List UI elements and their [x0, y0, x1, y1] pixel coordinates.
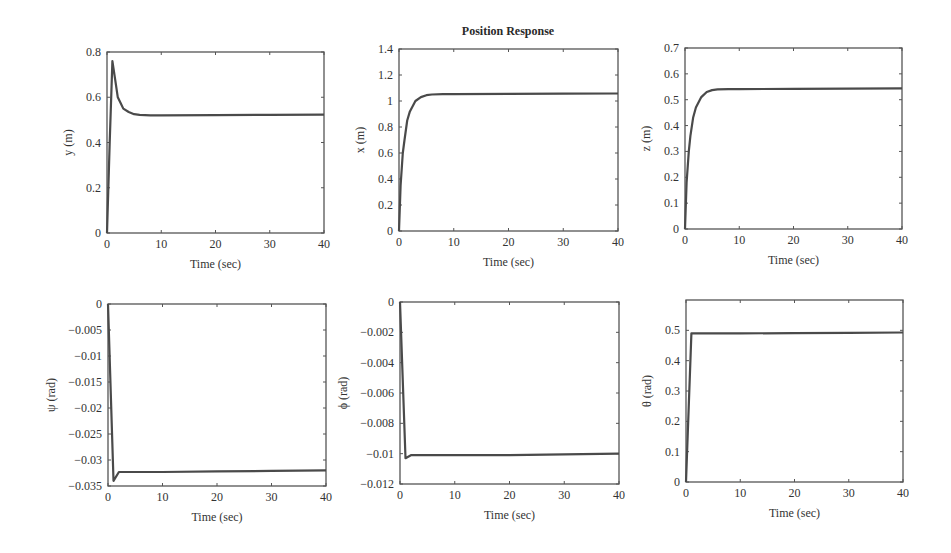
y-axis-label: ψ (rad) [44, 378, 58, 412]
y-tick-label: 0.2 [665, 414, 680, 428]
y-tick-label: 0.4 [86, 136, 101, 150]
x-tick-label: 30 [843, 486, 855, 500]
axes-frame [399, 49, 618, 231]
y-tick-label: 0.5 [664, 93, 679, 107]
x-tick-label: 40 [320, 490, 332, 504]
x-tick-label: 0 [104, 237, 110, 251]
x-tick-label: 10 [157, 490, 169, 504]
x-tick-label: 30 [842, 233, 854, 247]
y-tick-label: 0.7 [664, 41, 679, 55]
y-tick-label: 0 [388, 295, 394, 309]
y-axis-label: z (m) [639, 126, 653, 152]
y-tick-label: −0.005 [68, 323, 102, 337]
y-tick-label: 1.4 [378, 42, 393, 56]
x-tick-label: 30 [264, 237, 276, 251]
y-tick-label: 0.2 [378, 198, 393, 212]
y-tick-label: 0.4 [665, 354, 680, 368]
x-tick-label: 40 [897, 486, 909, 500]
x-tick-label: 40 [896, 233, 908, 247]
x-tick-label: 30 [266, 490, 278, 504]
x-tick-label: 10 [155, 237, 167, 251]
y-tick-label: 0.2 [86, 181, 101, 195]
x-tick-label: 20 [789, 486, 801, 500]
y-tick-label: −0.035 [68, 479, 102, 493]
x-axis-label: Time (sec) [769, 506, 820, 520]
x-axis-label: Time (sec) [768, 253, 819, 267]
x-tick-label: 20 [504, 488, 516, 502]
x-tick-label: 20 [788, 233, 800, 247]
y-tick-label: 0 [387, 224, 393, 238]
y-tick-label: −0.004 [360, 356, 394, 370]
x-axis-label: Time (sec) [191, 510, 242, 524]
y-tick-label: −0.006 [360, 386, 394, 400]
y-tick-label: 0.8 [86, 45, 101, 59]
y-tick-label: 0 [96, 297, 102, 311]
figure-canvas: 01020304000.20.40.60.8Time (sec)y (m)010… [0, 0, 951, 553]
y-tick-label: −0.025 [68, 427, 102, 441]
subplot-top-right: 01020304000.10.20.30.40.50.60.7Time (sec… [639, 41, 908, 267]
y-tick-label: 0.3 [664, 144, 679, 158]
y-tick-label: 1 [387, 94, 393, 108]
y-tick-label: 0.5 [665, 323, 680, 337]
y-tick-label: −0.008 [360, 416, 394, 430]
y-tick-label: 0.2 [664, 170, 679, 184]
x-tick-label: 0 [105, 490, 111, 504]
x-tick-label: 0 [396, 235, 402, 249]
y-tick-label: 0.4 [378, 172, 393, 186]
x-tick-label: 40 [612, 235, 624, 249]
y-tick-label: 0.8 [378, 120, 393, 134]
axes-frame [400, 302, 619, 484]
subplot-top-left: 01020304000.20.40.60.8Time (sec)y (m) [61, 45, 330, 271]
y-tick-label: 0 [673, 222, 679, 236]
y-axis-label: ϕ (rad) [336, 377, 350, 410]
x-tick-label: 0 [683, 486, 689, 500]
y-axis-label: y (m) [61, 129, 75, 155]
x-tick-label: 0 [682, 233, 688, 247]
x-tick-label: 30 [558, 488, 570, 502]
subplot-bottom-right: 01020304000.10.20.30.40.5Time (sec)θ (ra… [640, 300, 909, 520]
y-tick-label: −0.002 [360, 325, 394, 339]
x-axis-label: Time (sec) [190, 257, 241, 271]
x-tick-label: 10 [734, 486, 746, 500]
y-tick-label: 0 [674, 475, 680, 489]
y-tick-label: 0.4 [664, 119, 679, 133]
axes-frame [107, 52, 324, 233]
x-tick-label: 10 [449, 488, 461, 502]
y-tick-label: 0.1 [665, 445, 680, 459]
axes-frame [686, 300, 903, 482]
y-tick-label: −0.03 [74, 453, 102, 467]
y-tick-label: 1.2 [378, 68, 393, 82]
subplot-top-middle: 01020304000.20.40.60.811.21.4Time (sec)x… [353, 42, 624, 269]
x-tick-label: 20 [503, 235, 515, 249]
y-tick-label: 0.6 [378, 146, 393, 160]
x-axis-label: Time (sec) [483, 255, 534, 269]
axes-frame [108, 304, 326, 486]
x-tick-label: 40 [613, 488, 625, 502]
y-axis-label: θ (rad) [640, 375, 654, 407]
y-tick-label: −0.012 [360, 477, 394, 491]
axes-frame [685, 48, 902, 229]
y-tick-label: −0.015 [68, 375, 102, 389]
y-tick-label: −0.01 [74, 349, 102, 363]
y-tick-label: −0.01 [366, 447, 394, 461]
x-tick-label: 10 [448, 235, 460, 249]
x-tick-label: 20 [210, 237, 222, 251]
x-tick-label: 10 [733, 233, 745, 247]
y-axis-label: x (m) [353, 127, 367, 153]
y-tick-label: 0.6 [86, 90, 101, 104]
subplot-bottom-middle: 010203040−0.012−0.01−0.008−0.006−0.004−0… [336, 295, 625, 522]
subplot-bottom-left: 010203040−0.035−0.03−0.025−0.02−0.015−0.… [44, 297, 332, 524]
x-tick-label: 20 [211, 490, 223, 504]
x-tick-label: 0 [397, 488, 403, 502]
x-axis-label: Time (sec) [484, 508, 535, 522]
y-tick-label: 0 [95, 226, 101, 240]
y-tick-label: 0.1 [664, 196, 679, 210]
x-tick-label: 30 [557, 235, 569, 249]
y-tick-label: −0.02 [74, 401, 102, 415]
x-tick-label: 40 [318, 237, 330, 251]
y-tick-label: 0.3 [665, 384, 680, 398]
y-tick-label: 0.6 [664, 67, 679, 81]
